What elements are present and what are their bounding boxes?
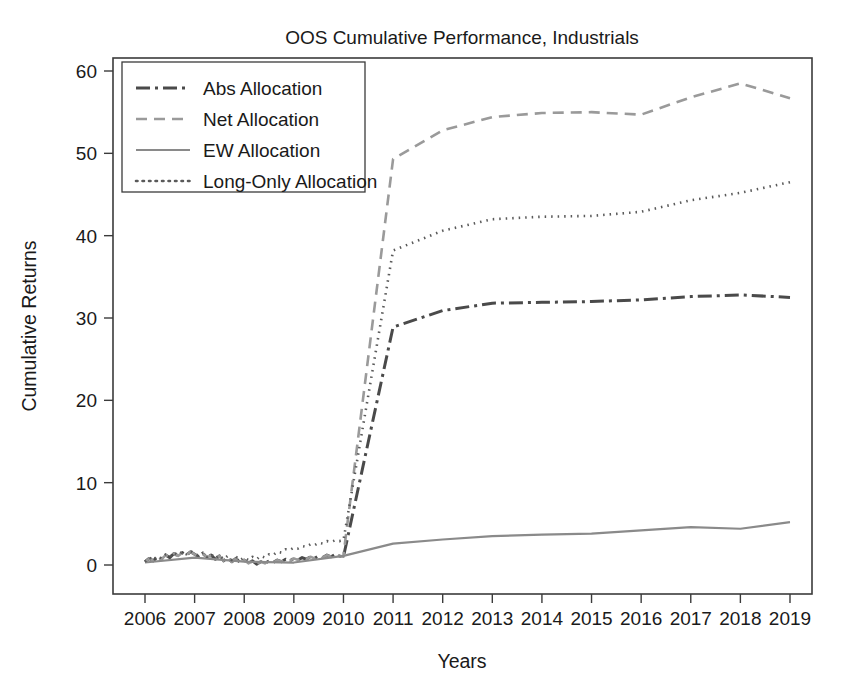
y-tick-label: 50 — [76, 143, 97, 164]
y-tick-label: 0 — [86, 555, 97, 576]
legend-label-1: Abs Allocation — [203, 78, 322, 99]
x-axis-label: Years — [437, 650, 486, 672]
x-tick-label: 2017 — [670, 608, 712, 629]
x-tick-label: 2014 — [521, 608, 564, 629]
chart-title: OOS Cumulative Performance, Industrials — [285, 27, 639, 48]
x-tick-label: 2019 — [769, 608, 811, 629]
chart-canvas: OOS Cumulative Performance, Industrials … — [0, 0, 855, 690]
y-axis-label: Cumulative Returns — [18, 240, 40, 411]
y-tick-label: 30 — [76, 308, 97, 329]
x-tick-label: 2012 — [422, 608, 464, 629]
x-axis-ticks: 2006200720082009201020112012201320142015… — [124, 594, 811, 629]
y-tick-label: 20 — [76, 390, 97, 411]
legend-label-3: EW Allocation — [203, 140, 320, 161]
chart-figure: OOS Cumulative Performance, Industrials … — [0, 0, 855, 690]
x-tick-label: 2007 — [173, 608, 215, 629]
legend-label-4: Long-Only Allocation — [203, 171, 377, 192]
x-tick-label: 2010 — [322, 608, 364, 629]
legend-label-2: Net Allocation — [203, 109, 319, 130]
x-tick-label: 2016 — [620, 608, 662, 629]
x-tick-label: 2015 — [570, 608, 612, 629]
series-line-ew-allocation — [145, 522, 790, 562]
x-tick-label: 2013 — [471, 608, 513, 629]
y-tick-label: 10 — [76, 473, 97, 494]
x-tick-label: 2009 — [273, 608, 315, 629]
x-tick-label: 2018 — [719, 608, 761, 629]
y-tick-label: 40 — [76, 226, 97, 247]
x-tick-label: 2006 — [124, 608, 166, 629]
y-tick-label: 60 — [76, 61, 97, 82]
x-tick-label: 2011 — [373, 608, 414, 629]
y-axis-ticks: 0102030405060 — [76, 61, 113, 576]
chart-legend: Abs AllocationNet AllocationEW Allocatio… — [122, 62, 377, 192]
x-tick-label: 2008 — [223, 608, 265, 629]
series-line-abs-allocation — [145, 295, 790, 564]
series-line-long-only-allocation — [145, 182, 790, 562]
